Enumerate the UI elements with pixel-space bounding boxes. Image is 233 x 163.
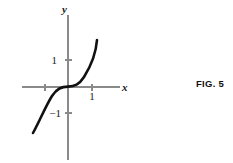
figure-container: y x 1 −1 1 FIG. 5 bbox=[0, 0, 233, 163]
y-tick-label-positive-one: 1 bbox=[52, 54, 58, 66]
x-axis-label: x bbox=[121, 81, 128, 93]
x-tick-label-positive-one: 1 bbox=[89, 90, 95, 102]
figure-caption: FIG. 5 bbox=[196, 78, 224, 89]
y-tick-label-negative-one: −1 bbox=[49, 107, 61, 119]
y-axis-label: y bbox=[60, 3, 67, 15]
